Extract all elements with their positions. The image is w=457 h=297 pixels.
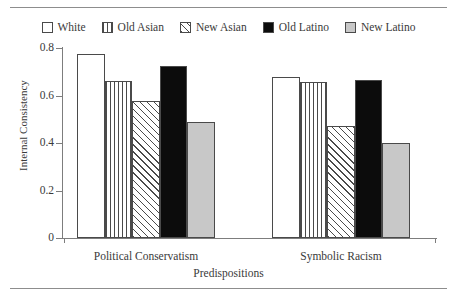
x-axis-line bbox=[62, 238, 437, 239]
bar-white-political-conservatism bbox=[77, 54, 105, 238]
legend-label-old-asian: Old Asian bbox=[118, 21, 164, 33]
legend-swatch-new-asian-icon bbox=[180, 22, 191, 33]
figure-container: White Old Asian New Asian Old Latino New… bbox=[0, 0, 457, 297]
legend-label-new-asian: New Asian bbox=[196, 21, 247, 33]
bar-old-asian-political-conservatism bbox=[105, 81, 133, 238]
bar-old-asian-symbolic-racism bbox=[300, 82, 328, 238]
legend-swatch-old-latino-icon bbox=[263, 22, 274, 33]
legend-swatch-white-icon bbox=[42, 22, 53, 33]
x-axis-tick-mark bbox=[64, 238, 65, 243]
chart-legend: White Old Asian New Asian Old Latino New… bbox=[0, 19, 457, 35]
legend-item-old-asian: Old Asian bbox=[102, 21, 164, 33]
legend-label-new-latino: New Latino bbox=[361, 21, 416, 33]
figure-bottom-rule bbox=[10, 288, 447, 289]
x-axis-group-label-symbolic-racism: Symbolic Racism bbox=[241, 250, 441, 262]
bar-old-latino-political-conservatism bbox=[160, 66, 188, 238]
legend-item-white: White bbox=[42, 21, 86, 33]
legend-item-old-latino: Old Latino bbox=[263, 21, 329, 33]
bar-new-latino-political-conservatism bbox=[187, 122, 215, 238]
y-axis-title: Internal Consistency bbox=[18, 46, 29, 206]
y-axis-tick-mark bbox=[56, 238, 62, 239]
legend-label-old-latino: Old Latino bbox=[279, 21, 329, 33]
plot-area bbox=[62, 48, 437, 238]
x-axis-title: Predispositions bbox=[0, 267, 457, 279]
x-axis-group-label-political-conservatism: Political Conservatism bbox=[46, 250, 246, 262]
legend-item-new-latino: New Latino bbox=[345, 21, 416, 33]
bar-new-asian-symbolic-racism bbox=[327, 126, 355, 238]
legend-item-new-asian: New Asian bbox=[180, 21, 247, 33]
figure-top-rule bbox=[10, 7, 447, 8]
bar-old-latino-symbolic-racism bbox=[355, 80, 383, 238]
bar-white-symbolic-racism bbox=[272, 77, 300, 239]
x-axis-tick-mark bbox=[435, 238, 436, 243]
bar-new-asian-political-conservatism bbox=[132, 101, 160, 238]
bar-new-latino-symbolic-racism bbox=[382, 143, 410, 238]
legend-swatch-new-latino-icon bbox=[345, 22, 356, 33]
legend-swatch-old-asian-icon bbox=[102, 22, 113, 33]
y-axis-tick-label: 0 bbox=[14, 232, 54, 244]
legend-label-white: White bbox=[58, 21, 86, 33]
